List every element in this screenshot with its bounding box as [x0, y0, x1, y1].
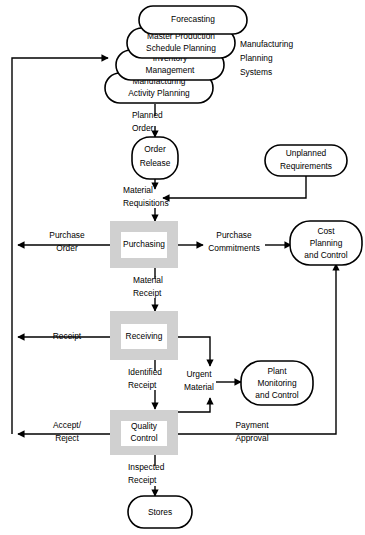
flowchart-canvas: Manufacturing Activity Planning Inventor…: [0, 0, 365, 535]
flow-urgent-material-line1: Urgent: [186, 369, 212, 379]
node-unplanned-requirements-line1: Unplanned: [286, 148, 327, 158]
flow-purchase-commitments-line2: Commitments: [208, 243, 260, 253]
node-plant-monitoring-and-control[interactable]: Plant Monitoring and Control: [241, 361, 313, 405]
flow-label-planned-order: Planned Order: [132, 110, 163, 133]
node-forecasting[interactable]: Forecasting: [139, 6, 247, 34]
flow-planned-order-line1: Planned: [132, 110, 163, 120]
node-purchasing[interactable]: Purchasing: [110, 221, 178, 268]
flow-label-accept-reject: Accept/ Reject: [53, 420, 82, 443]
connector-unplanned-requirements-to-requisitions: [163, 176, 306, 198]
flow-material-receipt-line1: Material: [133, 275, 163, 285]
flow-label-payment-approval: Payment Approval: [235, 420, 269, 443]
flow-payment-approval-line2: Approval: [235, 433, 268, 443]
node-quality-control-line2: Control: [131, 433, 158, 443]
group-label-line2: Planning: [240, 53, 273, 63]
flow-identified-receipt-line1: Identified: [128, 367, 162, 377]
flow-label-material-receipt: Material Receipt: [133, 275, 163, 298]
flow-label-inspected-receipt: Inspected Receipt: [128, 462, 165, 485]
node-plant-monitoring-line3: and Control: [255, 390, 298, 400]
flow-accept-reject-line2: Reject: [55, 433, 79, 443]
node-order-release[interactable]: Order Release: [132, 137, 178, 179]
node-plant-monitoring-line1: Plant: [267, 366, 287, 376]
connector-receiving-to-urgent-material: [178, 337, 210, 366]
node-quality-control[interactable]: Quality Control: [110, 410, 178, 455]
flow-purchase-order-line2: Order: [56, 243, 78, 253]
node-order-release-line2: Release: [140, 158, 171, 168]
flow-label-receipt: Receipt: [53, 331, 82, 341]
flow-planned-order-line2: Order: [132, 123, 154, 133]
node-forecasting-label: Forecasting: [171, 14, 215, 24]
flow-label-identified-receipt: Identified Receipt: [128, 367, 162, 390]
flow-urgent-material-line2: Material: [184, 382, 214, 392]
group-label-line1: Manufacturing: [240, 39, 293, 49]
node-unplanned-requirements[interactable]: Unplanned Requirements: [265, 145, 347, 176]
group-label-line3: Systems: [240, 67, 272, 77]
flow-label-urgent-material: Urgent Material: [184, 369, 214, 392]
node-order-release-line1: Order: [144, 144, 166, 154]
node-stores-label: Stores: [148, 507, 172, 517]
connector-quality-control-to-urgent-material: [178, 398, 210, 412]
group-label-manufacturing-planning-systems: Manufacturing Planning Systems: [240, 39, 293, 77]
node-purchasing-label: Purchasing: [123, 239, 165, 249]
node-receiving-label: Receiving: [126, 331, 163, 341]
flow-label-purchase-order: Purchase Order: [49, 230, 85, 253]
flow-inspected-receipt-line2: Receipt: [128, 475, 157, 485]
node-receiving[interactable]: Receiving: [110, 311, 178, 360]
node-quality-control-line1: Quality: [131, 421, 158, 431]
node-master-production-line2: Schedule Planning: [146, 43, 216, 53]
flow-material-receipt-line2: Receipt: [133, 288, 162, 298]
node-unplanned-requirements-line2: Requirements: [280, 161, 332, 171]
node-manufacturing-activity-planning-line2: Activity Planning: [128, 88, 190, 98]
flow-identified-receipt-line2: Receipt: [128, 380, 157, 390]
flow-purchase-order-line1: Purchase: [49, 230, 85, 240]
node-stores[interactable]: Stores: [128, 496, 192, 528]
flow-label-purchase-commitments: Purchase Commitments: [208, 230, 260, 253]
flow-receipt-label: Receipt: [53, 331, 82, 341]
flow-purchase-commitments-line1: Purchase: [216, 230, 252, 240]
flowchart-page: Manufacturing Activity Planning Inventor…: [0, 0, 365, 535]
node-inventory-management-line2: Management: [146, 65, 196, 75]
node-cost-planning-line2: Planning: [310, 238, 343, 248]
flow-material-requisitions-line2: Requisitions: [123, 198, 169, 208]
node-cost-planning-line1: Cost: [317, 226, 335, 236]
node-plant-monitoring-line2: Monitoring: [257, 378, 296, 388]
flow-material-requisitions-line1: Material: [123, 185, 153, 195]
node-cost-planning-and-control[interactable]: Cost Planning and Control: [290, 221, 362, 265]
flow-accept-reject-line1: Accept/: [53, 420, 82, 430]
flow-inspected-receipt-line1: Inspected: [128, 462, 165, 472]
flow-label-material-requisitions: Material Requisitions: [123, 185, 169, 208]
node-cost-planning-line3: and Control: [304, 250, 347, 260]
connector-quality-control-to-payment-approval: [178, 264, 336, 434]
flow-payment-approval-line1: Payment: [235, 420, 269, 430]
